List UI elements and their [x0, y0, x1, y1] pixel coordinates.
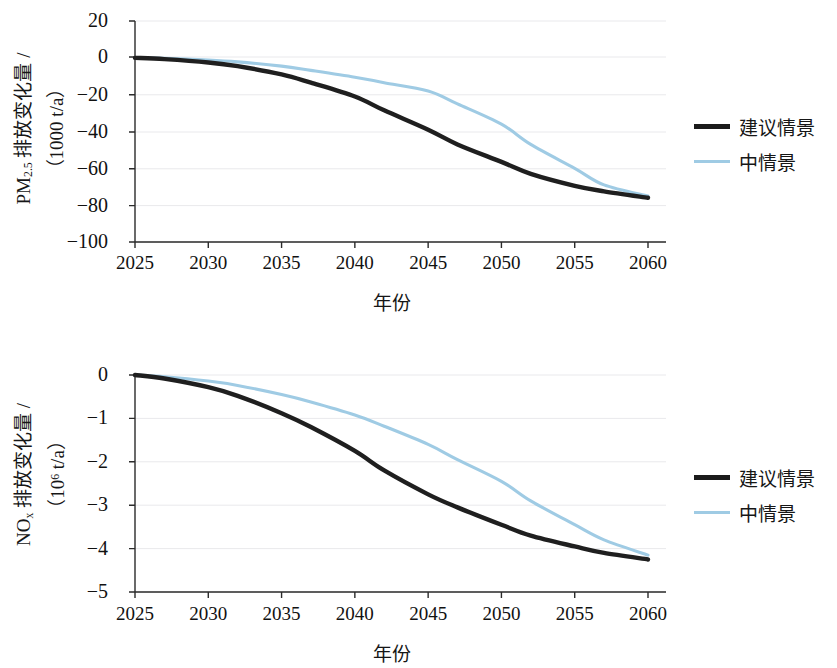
nox-xtick-2055: 2055 — [535, 604, 615, 623]
line-swatch-black-icon — [694, 124, 730, 129]
pm25-legend-item-proposed: 建议情景 — [694, 113, 815, 140]
pm25-legend-label-middle: 中情景 — [739, 148, 796, 175]
nox-legend-item-middle: 中情景 — [694, 499, 796, 526]
chart-panel-pm25: PM2.5 排放变化量 / （1000 t/a） 20 0 −20 −40 −6… — [0, 0, 837, 334]
pm25-xtick-2055: 2055 — [535, 253, 615, 272]
pm25-xtick-2025: 2025 — [95, 253, 175, 272]
nox-legend-item-proposed: 建议情景 — [694, 464, 815, 491]
nox-legend-label-proposed: 建议情景 — [739, 464, 815, 491]
pm25-xtick-2035: 2035 — [242, 253, 322, 272]
pm25-gridlines — [135, 21, 666, 242]
pm25-axis-lines — [129, 21, 666, 248]
nox-gridlines — [135, 375, 666, 592]
nox-axis-lines — [129, 375, 666, 598]
pm25-legend-item-middle: 中情景 — [694, 148, 796, 175]
nox-x-axis-title: 年份 — [332, 639, 452, 666]
nox-xtick-2040: 2040 — [315, 604, 395, 623]
pm25-xtick-2040: 2040 — [315, 253, 395, 272]
line-swatch-blue-icon — [694, 511, 730, 514]
nox-xtick-2050: 2050 — [461, 604, 541, 623]
nox-xtick-2025: 2025 — [95, 604, 175, 623]
pm25-series-middle-scenario — [135, 58, 648, 196]
nox-xtick-2030: 2030 — [168, 604, 248, 623]
pm25-xtick-2060: 2060 — [608, 253, 688, 272]
pm25-legend-label-proposed: 建议情景 — [739, 113, 815, 140]
nox-legend-label-middle: 中情景 — [739, 499, 796, 526]
line-swatch-black-icon — [694, 475, 730, 480]
nox-xtick-2035: 2035 — [242, 604, 322, 623]
chart-panel-nox: NOx 排放变化量 / （106 t/a） 0 −1 −2 −3 −4 −5 2… — [0, 334, 837, 668]
nox-series-middle-scenario — [135, 375, 648, 555]
nox-series-proposed-scenario — [135, 375, 648, 559]
pm25-xtick-2045: 2045 — [388, 253, 468, 272]
pm25-xtick-2030: 2030 — [168, 253, 248, 272]
pm25-series-proposed-scenario — [135, 58, 648, 198]
line-swatch-blue-icon — [694, 160, 730, 163]
nox-xtick-2045: 2045 — [388, 604, 468, 623]
figure-emission-change: PM2.5 排放变化量 / （1000 t/a） 20 0 −20 −40 −6… — [0, 0, 837, 668]
pm25-xtick-2050: 2050 — [461, 253, 541, 272]
pm25-x-axis-title: 年份 — [332, 288, 452, 315]
nox-xtick-2060: 2060 — [608, 604, 688, 623]
